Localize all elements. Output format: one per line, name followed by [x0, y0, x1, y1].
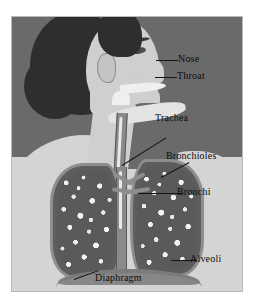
leader-line-bronchi	[138, 193, 182, 194]
leader-line-nose	[156, 60, 178, 61]
lung-left	[50, 163, 122, 279]
label-alveoli: Alveoli	[190, 253, 221, 264]
label-bronchi: Bronchi	[177, 186, 211, 197]
label-throat: Throat	[177, 70, 205, 81]
label-nose: Nose	[178, 53, 199, 64]
label-bronchioles: Bronchioles	[166, 150, 217, 161]
hair-lower	[24, 53, 86, 119]
respiratory-system-figure: Nose Throat Trachea Bronchioles Bronchi …	[0, 0, 254, 308]
ear	[97, 53, 116, 83]
alveoli-anatomy-left	[55, 168, 117, 274]
hair-fringe	[98, 16, 142, 57]
label-diaphragm: Diaphragm	[95, 272, 142, 283]
label-trachea: Trachea	[155, 112, 188, 123]
leader-line-throat	[155, 77, 177, 78]
